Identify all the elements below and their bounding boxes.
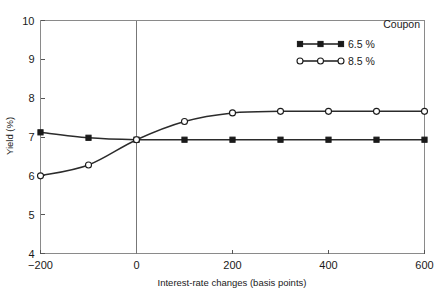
x-tick-label: −200 — [28, 259, 53, 271]
marker-open-circle — [297, 58, 303, 64]
marker-open-circle — [326, 108, 332, 114]
marker-open-circle — [230, 110, 236, 116]
legend-title: Coupon — [383, 18, 420, 30]
x-tick-label: 200 — [223, 259, 241, 271]
x-tick-label: 0 — [133, 259, 139, 271]
yield-vs-interest-rate-chart: 45678910 −2000200400600 Interest-rate ch… — [0, 0, 441, 292]
x-tick-label: 600 — [415, 259, 433, 271]
y-axis-title: Yield (%) — [4, 117, 15, 155]
marker-open-circle — [38, 173, 44, 179]
marker-filled-square — [326, 137, 331, 142]
x-tick-label: 400 — [319, 259, 337, 271]
marker-filled-square — [422, 137, 427, 142]
y-tick-label: 10 — [22, 15, 34, 27]
y-tick-label: 7 — [28, 131, 34, 143]
marker-filled-square — [318, 41, 323, 46]
marker-open-circle — [374, 108, 380, 114]
marker-filled-square — [278, 137, 283, 142]
y-tick-label: 6 — [28, 170, 34, 182]
marker-open-circle — [422, 108, 428, 114]
y-tick-label: 8 — [28, 92, 34, 104]
x-axis-title: Interest-rate changes (basis points) — [158, 277, 307, 288]
marker-open-circle — [134, 137, 140, 143]
marker-open-circle — [338, 58, 344, 64]
y-tick-label: 9 — [28, 53, 34, 65]
marker-filled-square — [38, 130, 43, 135]
marker-filled-square — [86, 135, 91, 140]
marker-filled-square — [374, 137, 379, 142]
y-tick-label: 5 — [28, 209, 34, 221]
marker-filled-square — [182, 137, 187, 142]
marker-open-circle — [86, 162, 92, 168]
chart-figure: 45678910 −2000200400600 Interest-rate ch… — [0, 0, 441, 292]
marker-open-circle — [278, 108, 284, 114]
marker-open-circle — [318, 58, 324, 64]
marker-filled-square — [230, 137, 235, 142]
legend-label: 6.5 % — [348, 38, 375, 50]
legend-label: 8.5 % — [348, 55, 375, 67]
marker-filled-square — [338, 41, 343, 46]
marker-open-circle — [182, 118, 188, 124]
marker-filled-square — [297, 41, 302, 46]
